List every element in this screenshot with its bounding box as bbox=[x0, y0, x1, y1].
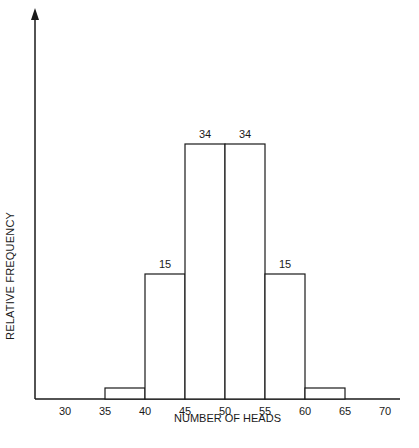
y-axis-arrow-icon bbox=[31, 8, 39, 20]
bar-value-label: 15 bbox=[159, 258, 171, 270]
histogram-bar bbox=[185, 144, 225, 399]
bar-value-label: 34 bbox=[239, 128, 251, 140]
histogram-chart: 15343415 303540455055606570 bbox=[0, 0, 419, 448]
histogram-bar bbox=[105, 388, 145, 399]
bar-value-label: 15 bbox=[279, 258, 291, 270]
y-axis-label: RELATIVE FREQUENCY bbox=[4, 212, 16, 340]
bar-value-label: 34 bbox=[199, 128, 211, 140]
histogram-bar bbox=[265, 274, 305, 399]
histogram-bar bbox=[225, 144, 265, 399]
histogram-bar bbox=[145, 274, 185, 399]
bars-group bbox=[105, 144, 345, 399]
x-axis-label: NUMBER OF HEADS bbox=[0, 412, 419, 424]
histogram-bar bbox=[305, 388, 345, 399]
